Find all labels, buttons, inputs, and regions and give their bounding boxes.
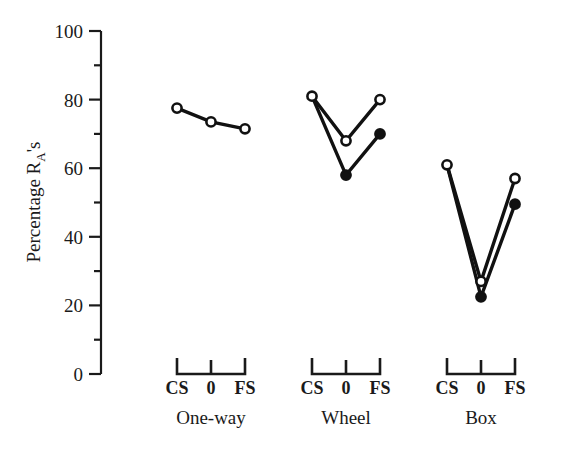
x-label-one-way-zero: 0 [207, 378, 216, 398]
data-point-wheel-open-zero [341, 136, 350, 145]
group-one-way: CS 0 FS One-way [165, 104, 255, 429]
data-point-box-open-fs [510, 174, 519, 183]
data-point-box-filled-zero [476, 292, 485, 301]
data-point-wheel-filled-zero [341, 171, 350, 180]
x-label-box-zero: 0 [477, 378, 486, 398]
x-label-box-cs: CS [435, 378, 458, 398]
y-axis-title: Percentage RA's [23, 142, 48, 263]
data-point-wheel-open-fs [375, 95, 384, 104]
y-tick-label-60: 60 [64, 158, 83, 179]
data-point-box-filled-fs [510, 200, 519, 209]
group-label-box: Box [465, 407, 497, 428]
y-tick-label-0: 0 [74, 364, 84, 385]
chart-figure: 100 80 60 40 20 0 Percentage RA's CS 0 F… [0, 0, 561, 454]
y-tick-label-80: 80 [64, 90, 83, 111]
data-point-one-way-open-cs [172, 104, 181, 113]
data-point-wheel-filled-fs [375, 129, 384, 138]
group-box: CS 0 FS Box [435, 160, 525, 428]
x-label-one-way-cs: CS [165, 378, 188, 398]
data-point-box-open-zero [476, 277, 485, 286]
x-label-wheel-zero: 0 [342, 378, 351, 398]
line-chart-svg: 100 80 60 40 20 0 Percentage RA's CS 0 F… [0, 0, 561, 454]
group-label-one-way: One-way [176, 407, 246, 428]
y-tick-label-100: 100 [55, 21, 84, 42]
x-label-wheel-fs: FS [369, 378, 390, 398]
y-tick-label-20: 20 [64, 295, 83, 316]
group-label-wheel: Wheel [321, 407, 371, 428]
y-axis-title-main: Percentage R [23, 161, 44, 262]
data-point-one-way-open-fs [240, 124, 249, 133]
y-axis-title-suffix: 's [23, 142, 44, 153]
data-point-one-way-open-zero [206, 117, 215, 126]
series-open-line-box [447, 165, 515, 282]
x-label-wheel-cs: CS [300, 378, 323, 398]
y-axis-title-text: Percentage RA's [23, 142, 48, 263]
data-point-box-open-cs [442, 160, 451, 169]
y-axis: 100 80 60 40 20 0 [55, 21, 102, 385]
y-tick-label-40: 40 [64, 227, 83, 248]
data-point-wheel-open-cs [307, 92, 316, 101]
x-label-box-fs: FS [504, 378, 525, 398]
group-wheel: CS 0 FS Wheel [300, 92, 390, 428]
x-label-one-way-fs: FS [234, 378, 255, 398]
